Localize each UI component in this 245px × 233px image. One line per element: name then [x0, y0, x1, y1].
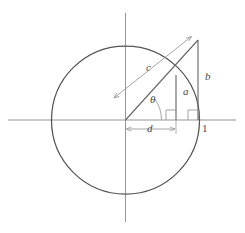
geometry-figure: c b a d θ 1	[0, 0, 245, 233]
right-angle-marker-b	[188, 110, 198, 120]
label-theta: θ	[150, 94, 155, 105]
figure-canvas	[0, 0, 245, 233]
label-c: c	[146, 62, 151, 73]
label-d: d	[147, 123, 153, 134]
label-b: b	[205, 71, 211, 82]
right-angle-marker-a	[166, 110, 176, 120]
label-a: a	[183, 86, 189, 97]
label-one: 1	[202, 123, 208, 134]
